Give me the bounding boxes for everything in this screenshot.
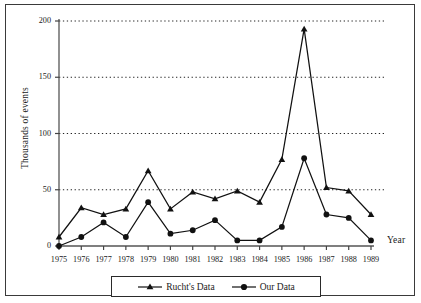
legend-label-rucht: Rucht's Data xyxy=(166,282,214,292)
legend-entry-our-data: Our Data xyxy=(231,282,295,292)
data-point-marker xyxy=(168,231,174,237)
chart-legend: Rucht's Data Our Data xyxy=(111,276,321,297)
data-point-marker xyxy=(323,184,330,190)
legend-entry-rucht: Rucht's Data xyxy=(137,282,214,292)
chart-figure: Thousands of events Year 050100150200 19… xyxy=(0,0,421,303)
data-point-marker xyxy=(257,237,263,243)
y-tick-label: 50 xyxy=(25,185,51,194)
data-point-marker xyxy=(346,215,352,221)
data-point-marker xyxy=(122,206,129,212)
y-tick-label: 200 xyxy=(25,16,51,25)
data-point-marker xyxy=(123,234,129,240)
data-point-marker xyxy=(145,199,151,205)
data-point-marker xyxy=(368,237,374,243)
data-point-marker xyxy=(324,212,330,218)
chart-frame: Thousands of events Year 050100150200 19… xyxy=(5,4,415,296)
y-tick-label: 100 xyxy=(25,129,51,138)
data-point-marker xyxy=(145,167,152,173)
data-point-marker xyxy=(256,199,263,205)
data-point-marker xyxy=(234,237,240,243)
data-point-marker xyxy=(101,219,107,225)
chart-plot-area xyxy=(6,5,416,297)
data-point-marker xyxy=(301,155,307,161)
legend-label-our-data: Our Data xyxy=(260,282,295,292)
data-point-marker xyxy=(301,26,308,32)
triangle-marker-icon xyxy=(137,282,163,292)
y-tick-label: 150 xyxy=(25,72,51,81)
data-point-marker xyxy=(78,234,84,240)
data-point-marker xyxy=(190,227,196,233)
data-point-marker xyxy=(279,224,285,230)
x-axis-title: Year xyxy=(387,235,405,245)
data-point-marker xyxy=(212,217,218,223)
data-point-marker xyxy=(189,189,196,195)
data-point-marker xyxy=(78,205,85,211)
series-line xyxy=(59,29,371,237)
data-point-marker xyxy=(234,188,241,194)
data-point-marker xyxy=(278,156,285,162)
x-tick-label: 1989 xyxy=(356,255,386,264)
y-tick-label: 0 xyxy=(25,241,51,250)
circle-marker-icon xyxy=(231,282,257,292)
data-point-marker xyxy=(56,243,62,249)
